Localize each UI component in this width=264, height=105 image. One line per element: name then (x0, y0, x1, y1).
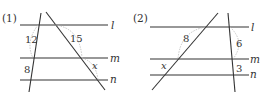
figure-2-label: (2) (133, 12, 148, 24)
figure-2: (2) l m n 8 x 6 3 (133, 12, 260, 92)
segment-value-15: 15 (70, 33, 83, 44)
figure-1-label: (1) (2, 12, 17, 24)
transversal-left (152, 13, 218, 90)
segment-value-x: x (161, 60, 167, 71)
line-label-m: m (110, 52, 120, 64)
segment-value-6: 6 (236, 38, 242, 49)
line-label-m: m (250, 53, 260, 65)
segment-value-8: 8 (183, 33, 189, 44)
line-label-l: l (251, 21, 254, 33)
line-label-n: n (110, 73, 117, 85)
transversal-right (46, 12, 105, 90)
parallel-lines-diagram: (1) l m n 12 8 15 x (2) l m n 8 x 6 3 (0, 0, 264, 105)
transversal-right (228, 13, 235, 92)
line-label-n: n (250, 68, 257, 80)
segment-value-12: 12 (25, 34, 38, 45)
line-label-l: l (111, 19, 114, 31)
figure-1: (1) l m n 12 8 15 x (2, 12, 120, 92)
segment-value-x: x (92, 60, 98, 71)
segment-value-8: 8 (24, 64, 30, 75)
segment-value-3: 3 (236, 63, 242, 74)
